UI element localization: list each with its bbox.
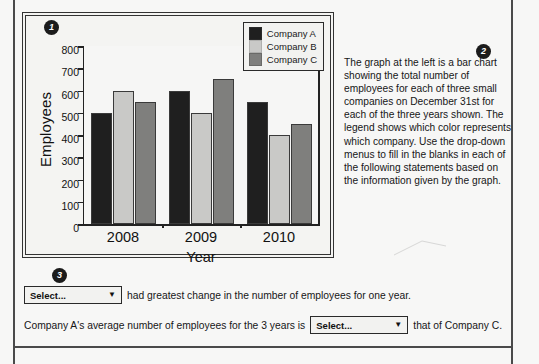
instructions-paragraph: The graph at the left is a bar chart sho… bbox=[344, 56, 514, 187]
chart-legend: Company A Company B Company C bbox=[243, 22, 324, 71]
page-border-left bbox=[13, 0, 15, 364]
y-axis-tick-mark bbox=[78, 91, 83, 93]
y-axis-tick-label: 400 bbox=[49, 133, 79, 145]
legend-swatch-company-b bbox=[249, 40, 262, 53]
worksheet-page: 1 2 3 Company A Company B Company C Empl… bbox=[0, 0, 539, 364]
bar-company-a bbox=[91, 113, 112, 224]
statement-row-1: Select... ▼ had greatest change in the n… bbox=[24, 286, 512, 304]
y-axis-tick-label: 100 bbox=[49, 200, 79, 212]
y-axis-tick-label: 300 bbox=[49, 155, 79, 167]
y-axis-tick-mark bbox=[78, 135, 83, 137]
statement-1-text-after: had greatest change in the number of emp… bbox=[122, 290, 416, 301]
legend-item: Company C bbox=[249, 53, 317, 66]
plot-right-border bbox=[318, 46, 320, 225]
y-axis-tick-mark bbox=[78, 68, 83, 70]
legend-item: Company B bbox=[249, 40, 317, 53]
axis-cap-bottom bbox=[315, 224, 320, 226]
statement-2-text-before: Company A's average number of employees … bbox=[24, 320, 310, 331]
bar-company-c bbox=[135, 102, 156, 224]
annotation-badge-1: 1 bbox=[44, 20, 59, 35]
annotation-badge-2: 2 bbox=[476, 44, 491, 59]
bar-company-a bbox=[247, 102, 268, 224]
questions-section: Select... ▼ had greatest change in the n… bbox=[24, 286, 512, 346]
x-axis-group-tick bbox=[162, 224, 164, 228]
select-dropdown-2[interactable]: Select... ▼ bbox=[310, 316, 408, 334]
y-axis-tick-mark bbox=[78, 224, 83, 226]
bar-company-b bbox=[269, 135, 290, 224]
y-axis-tick-label: 600 bbox=[49, 89, 79, 101]
y-axis-tick-label: 0 bbox=[49, 222, 79, 234]
bar-chart-panel: Company A Company B Company C Employees … bbox=[22, 12, 334, 258]
bar-company-c bbox=[213, 79, 234, 224]
legend-swatch-company-a bbox=[249, 27, 262, 40]
bar-group bbox=[84, 46, 162, 224]
bar-company-c bbox=[291, 124, 312, 224]
legend-label-company-a: Company A bbox=[267, 28, 316, 39]
select-dropdown-1-value: Select... bbox=[30, 290, 66, 301]
y-axis-tick-labels: 8007006005004003002001000 bbox=[49, 48, 79, 223]
bar-group bbox=[162, 46, 240, 224]
y-axis-tick-label: 800 bbox=[49, 44, 79, 56]
bar-company-b bbox=[191, 113, 212, 224]
y-axis-tick-mark bbox=[78, 180, 83, 182]
x-axis-group-tick bbox=[240, 224, 242, 228]
plot-area bbox=[84, 46, 318, 224]
page-border-bottom bbox=[13, 346, 513, 348]
y-axis-tick-mark bbox=[78, 202, 83, 204]
y-axis-tick-mark bbox=[78, 157, 83, 159]
legend-swatch-company-c bbox=[249, 53, 262, 66]
legend-label-company-c: Company C bbox=[267, 54, 317, 65]
y-axis-tick-mark bbox=[78, 113, 83, 115]
legend-item: Company A bbox=[249, 27, 317, 40]
annotation-badge-3: 3 bbox=[52, 268, 67, 283]
bar-company-b bbox=[113, 91, 134, 225]
x-axis-tick-label: 2009 bbox=[166, 229, 236, 245]
x-axis-line bbox=[83, 224, 318, 226]
x-axis-tick-label: 2010 bbox=[244, 229, 314, 245]
bar-company-a bbox=[169, 91, 190, 225]
x-axis-title: Year bbox=[83, 249, 319, 265]
y-axis-tick-label: 700 bbox=[49, 66, 79, 78]
y-axis-tick-label: 500 bbox=[49, 111, 79, 123]
pencil-stroke-decoration bbox=[392, 238, 448, 256]
chevron-down-icon: ▼ bbox=[108, 291, 116, 299]
bar-group bbox=[240, 46, 318, 224]
legend-label-company-b: Company B bbox=[267, 41, 317, 52]
chevron-down-icon: ▼ bbox=[394, 321, 402, 329]
statement-row-2: Company A's average number of employees … bbox=[24, 316, 512, 334]
y-axis-tick-label: 200 bbox=[49, 178, 79, 190]
select-dropdown-2-value: Select... bbox=[316, 320, 352, 331]
y-axis-tick-mark bbox=[78, 46, 83, 48]
statement-2-text-after: that of Company C. bbox=[408, 320, 507, 331]
select-dropdown-1[interactable]: Select... ▼ bbox=[24, 286, 122, 304]
x-axis-tick-label: 2008 bbox=[88, 229, 158, 245]
